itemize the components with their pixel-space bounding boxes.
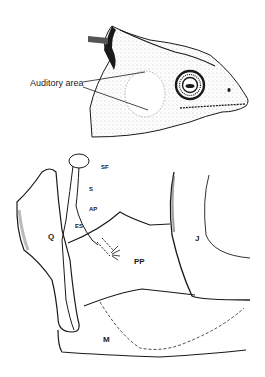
pterygoid-outline bbox=[68, 212, 170, 243]
jugal-inner bbox=[205, 175, 250, 258]
label-ap: AP bbox=[89, 206, 97, 212]
middle-ear-anatomy bbox=[17, 154, 250, 357]
jugal-bone bbox=[170, 172, 250, 300]
label-j: J bbox=[195, 235, 199, 243]
stapes-footplate bbox=[69, 154, 89, 168]
label-sf: SF bbox=[101, 164, 109, 170]
mandible-outline bbox=[58, 330, 246, 357]
label-pp: PP bbox=[134, 258, 145, 266]
extrastapes-fan bbox=[111, 246, 120, 260]
label-m: M bbox=[103, 336, 110, 344]
auditory-area bbox=[125, 71, 165, 117]
extrastapes-rod bbox=[97, 238, 114, 256]
neck-fringe bbox=[88, 36, 108, 44]
label-auditory-area: Auditory area bbox=[30, 79, 84, 88]
head-outline bbox=[90, 26, 248, 137]
label-es: ES bbox=[75, 223, 83, 229]
mandible-dashed-curve bbox=[100, 302, 244, 349]
anatomy-illustration bbox=[0, 0, 265, 377]
label-q: Q bbox=[48, 233, 54, 241]
nostril bbox=[227, 88, 230, 92]
lizard-head bbox=[83, 26, 248, 137]
label-s: S bbox=[89, 186, 93, 192]
jugal-shading bbox=[173, 176, 175, 232]
eye-icon bbox=[176, 71, 204, 99]
